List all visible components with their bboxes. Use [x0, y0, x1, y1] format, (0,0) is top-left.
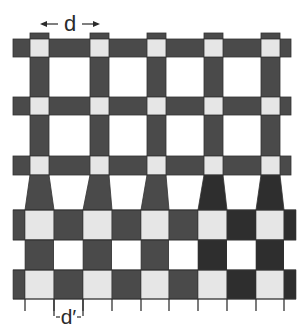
taper: [198, 175, 227, 210]
checker-cell-dark: [83, 240, 112, 270]
checker-cell-dark: [54, 270, 83, 299]
lattice-node: [204, 97, 223, 115]
lattice-node: [30, 97, 49, 115]
taper: [256, 175, 284, 210]
checker-cell-light: [198, 210, 227, 240]
checker-cell-dark: [112, 210, 141, 240]
checker-cell-dark: [169, 210, 198, 240]
checker-cell-dark: [169, 270, 198, 299]
checker-cell-light: [256, 210, 284, 240]
checker-cell-blank: [54, 240, 83, 270]
checker-cell-dark: [25, 240, 54, 270]
lattice-node: [30, 39, 49, 57]
checker-cell-light: [25, 210, 54, 240]
checkerboard: [13, 210, 296, 299]
period-d-prime-annotation: d′: [54, 299, 83, 328]
lattice-node: [147, 97, 166, 115]
taper: [25, 175, 54, 210]
checker-cell-blank: [13, 240, 25, 270]
checker-cell-dark: [54, 210, 83, 240]
lattice-node: [90, 97, 109, 115]
arrow-right-icon: [93, 21, 100, 27]
checker-cell-dark: [227, 210, 256, 240]
checker-cell-light: [83, 210, 112, 240]
taper: [141, 175, 169, 210]
checker-cell-light: [141, 270, 169, 299]
tapered-transitions: [25, 175, 284, 210]
lattice-diagram: d d′: [0, 0, 305, 329]
lattice-node: [261, 156, 280, 175]
lattice-node: [147, 39, 166, 57]
lattice-node: [90, 39, 109, 57]
lattice-node: [90, 156, 109, 175]
checker-cell-light: [198, 270, 227, 299]
checker-cell-dark: [284, 270, 296, 299]
checker-cell-dark: [284, 210, 296, 240]
checker-cell-dark: [141, 240, 169, 270]
checker-cell-light: [83, 270, 112, 299]
checker-cell-dark: [13, 270, 25, 299]
lattice-node: [261, 39, 280, 57]
lattice-node: [30, 156, 49, 175]
taper: [83, 175, 112, 210]
checker-cell-dark: [227, 270, 256, 299]
lattice-node: [204, 156, 223, 175]
checker-cell-light: [25, 270, 54, 299]
checker-cell-blank: [284, 240, 296, 270]
label-d: d: [64, 11, 76, 36]
checker-cell-blank: [169, 240, 198, 270]
checker-cell-light: [141, 210, 169, 240]
checker-cell-blank: [112, 240, 141, 270]
period-d-annotation: d: [40, 11, 100, 36]
label-d-prime: d′: [61, 305, 77, 328]
arrow-left-icon: [40, 21, 47, 27]
checker-cell-dark: [13, 210, 25, 240]
square-lattice: [13, 33, 291, 175]
checker-cell-dark: [112, 270, 141, 299]
checker-cell-blank: [227, 240, 256, 270]
checker-cell-dark: [256, 240, 284, 270]
checker-cell-dark: [198, 240, 227, 270]
lattice-node: [261, 97, 280, 115]
lattice-node: [204, 39, 223, 57]
lattice-node: [147, 156, 166, 175]
checker-cell-light: [256, 270, 284, 299]
